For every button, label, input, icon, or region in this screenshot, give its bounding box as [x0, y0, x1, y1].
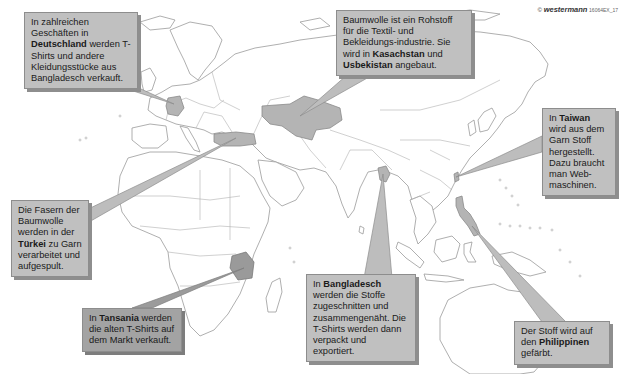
sri-lanka: [359, 226, 364, 234]
pointer-bangladesch: [364, 174, 392, 278]
italy: [180, 126, 200, 152]
country-name: Türkei: [18, 239, 46, 249]
sulawesi: [464, 242, 476, 262]
java: [424, 274, 464, 282]
callout-text: In zahlreichen Geschäften in: [31, 17, 89, 38]
turkey-highlight: [214, 132, 256, 146]
iberia: [132, 124, 168, 148]
publisher-brand: westermann: [544, 5, 588, 14]
borneo: [434, 236, 460, 262]
country-name: Kasachstan: [372, 49, 424, 59]
callout-tansania: In Tansania werden die alten T-Shirts au…: [82, 308, 182, 352]
callout-text: In: [549, 113, 559, 123]
country-name: Philippinen: [539, 337, 589, 347]
country-name: Deutschland: [31, 39, 87, 49]
country-name: Usbekistan: [343, 60, 393, 70]
copyright-notice: © westermann 16064EX_17: [538, 5, 618, 14]
country-name: Taiwan: [559, 113, 590, 123]
callout-text: angebaut.: [393, 60, 437, 70]
callout-text: In: [313, 279, 323, 289]
callout-text: gefärbt.: [521, 348, 553, 358]
sumatra: [396, 242, 424, 268]
callout-taiwan: In Taiwan wird aus dem Garn Stoff herges…: [542, 108, 616, 196]
country-name: Bangladesch: [323, 279, 381, 289]
copyright-symbol: ©: [538, 7, 542, 13]
callout-deutschland: In zahlreichen Geschäften in Deutschland…: [24, 12, 138, 89]
callout-tuerkei: Die Fasern der Baumwolle werden in der T…: [11, 200, 89, 277]
callout-text: werden die Stoffe zugeschnitten und zusa…: [313, 290, 406, 356]
callout-text: und: [425, 49, 443, 59]
callout-text: wird aus dem Garn Stoff hergestellt. Daz…: [549, 124, 604, 190]
callout-text: Die Fasern der Baumwolle werden in der: [18, 205, 80, 237]
madagascar: [266, 278, 282, 312]
country-name: Tansania: [99, 313, 139, 323]
callout-kasachstan-usbekistan: Baumwolle ist ein Rohstoff für die Texti…: [336, 10, 472, 76]
callout-text: In: [89, 313, 99, 323]
callout-philippinen: Der Stoff wird auf den Philippinen gefär…: [514, 321, 610, 365]
callout-bangladesch: In Bangladesch werden die Stoffe zugesch…: [306, 274, 416, 362]
figure-code: 16064EX_17: [589, 7, 618, 13]
